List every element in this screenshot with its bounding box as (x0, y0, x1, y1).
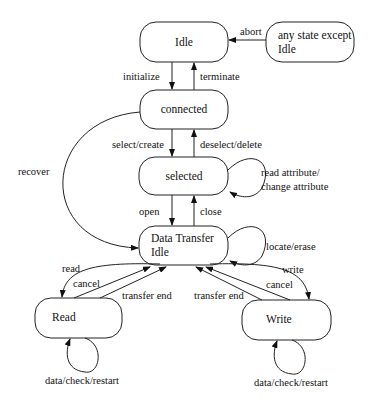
label-deselect-delete: deselect/delete (200, 139, 262, 150)
edge-loop-read (67, 338, 98, 372)
label-terminate: terminate (200, 71, 240, 82)
state-selected: selected (139, 157, 228, 195)
label-transfer-end-read: transfer end (122, 290, 173, 301)
label-cancel-read: cancel (73, 278, 100, 289)
svg-text:selected: selected (165, 170, 202, 182)
label-open: open (139, 206, 160, 217)
svg-text:Idle: Idle (151, 246, 169, 258)
state-read: Read (35, 298, 122, 338)
state-connected: connected (140, 90, 228, 129)
svg-text:Write: Write (266, 313, 292, 325)
svg-text:any state except: any state except (278, 29, 352, 42)
label-cancel-write: cancel (266, 279, 293, 290)
state-any-except-idle: any state except Idle (266, 22, 354, 62)
state-data-transfer-idle: Data Transfer Idle (139, 226, 228, 265)
svg-text:Idle: Idle (175, 36, 193, 48)
edge-loop-write (274, 340, 305, 374)
label-read: read (62, 263, 81, 274)
svg-text:Idle: Idle (278, 43, 296, 55)
edge-loop-attribute (228, 159, 266, 197)
edge-recover (63, 112, 140, 248)
label-abort: abort (240, 26, 262, 37)
state-diagram: Idle any state except Idle connected sel… (0, 0, 371, 408)
svg-text:Read: Read (52, 311, 76, 323)
label-transfer-end-write: transfer end (194, 290, 245, 301)
state-write: Write (242, 300, 331, 340)
label-read-attribute: read attribute/ (261, 167, 320, 178)
svg-text:Data Transfer: Data Transfer (151, 232, 214, 244)
label-write: write (282, 264, 304, 275)
label-read-loop: data/check/restart (45, 375, 119, 386)
state-idle: Idle (140, 22, 228, 62)
label-change-attribute: change attribute (261, 181, 329, 192)
label-write-loop: data/check/restart (254, 377, 328, 388)
edge-loop-locate-erase (228, 227, 266, 265)
label-recover: recover (18, 166, 50, 177)
label-initialize: initialize (123, 71, 160, 82)
label-locate-erase: locate/erase (266, 241, 316, 252)
svg-text:connected: connected (161, 103, 208, 115)
label-select-create: select/create (112, 139, 164, 150)
label-close: close (200, 206, 222, 217)
